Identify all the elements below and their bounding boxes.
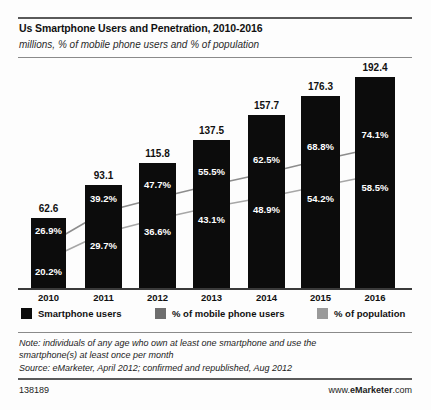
x-tick-2010: 2010 xyxy=(23,292,75,303)
bar-value-2016: 192.4 xyxy=(349,62,401,73)
x-axis-line xyxy=(18,288,412,290)
legend-item-population: % of population xyxy=(317,308,405,319)
point-label-2015: 68.8% xyxy=(293,141,349,152)
x-tick-2011: 2011 xyxy=(78,292,130,303)
x-tick-2013: 2013 xyxy=(186,292,238,303)
legend-rule xyxy=(18,332,412,333)
bar-value-2010: 62.6 xyxy=(23,203,75,214)
point-label-2016: 58.5% xyxy=(347,182,403,193)
bar-value-2014: 157.7 xyxy=(241,100,293,111)
point-label-2014: 62.5% xyxy=(239,154,295,165)
point-label-2011: 29.7% xyxy=(76,240,132,251)
url-suffix: .com xyxy=(392,385,412,395)
bar-2014 xyxy=(248,115,285,288)
point-label-2013: 55.5% xyxy=(184,166,240,177)
emarketer-chart-card: Us Smartphone Users and Penetration, 201… xyxy=(0,0,431,410)
legend-label-mobile-phone-users: % of mobile phone users xyxy=(172,308,284,319)
legend-swatch-mobile-phone-users xyxy=(155,308,166,319)
bar-value-2013: 137.5 xyxy=(186,125,238,136)
legend-label-population: % of population xyxy=(334,308,405,319)
point-label-2010: 26.9% xyxy=(21,225,77,236)
x-tick-2014: 2014 xyxy=(241,292,293,303)
bar-2015 xyxy=(301,96,340,288)
url-prefix: www. xyxy=(328,385,350,395)
url-brand: eMarketer xyxy=(350,385,393,395)
footer-rule xyxy=(18,378,412,380)
point-label-2010: 20.2% xyxy=(21,266,77,277)
point-label-2012: 47.7% xyxy=(130,179,186,190)
x-tick-2012: 2012 xyxy=(132,292,184,303)
point-label-2015: 54.2% xyxy=(293,193,349,204)
chart-id: 138189 xyxy=(19,385,49,395)
legend-swatch-population xyxy=(317,308,328,319)
x-tick-2015: 2015 xyxy=(295,292,347,303)
point-label-2016: 74.1% xyxy=(347,129,403,140)
legend-item-smartphone-users: Smartphone users xyxy=(21,308,121,319)
point-label-2013: 43.1% xyxy=(184,214,240,225)
point-label-2011: 39.2% xyxy=(76,193,132,204)
legend-label-smartphone-users: Smartphone users xyxy=(38,308,121,319)
source-line: Source: eMarketer, April 2012; confirmed… xyxy=(19,363,292,373)
note-line-1: Note: individuals of any age who own at … xyxy=(19,338,316,348)
point-label-2012: 36.6% xyxy=(130,226,186,237)
note-line-2: smartphone(s) at least once per month xyxy=(19,350,174,360)
bar-value-2012: 115.8 xyxy=(132,148,184,159)
chart-plot-area: 62.6201093.12011115.82012137.52013157.72… xyxy=(0,0,431,300)
emarketer-url: www.eMarketer.com xyxy=(328,385,412,395)
legend-item-mobile-phone-users: % of mobile phone users xyxy=(155,308,284,319)
legend-swatch-smartphone-users xyxy=(21,308,32,319)
bar-value-2011: 93.1 xyxy=(78,170,130,181)
point-label-2014: 48.9% xyxy=(239,204,295,215)
bar-value-2015: 176.3 xyxy=(295,81,347,92)
x-tick-2016: 2016 xyxy=(349,292,401,303)
